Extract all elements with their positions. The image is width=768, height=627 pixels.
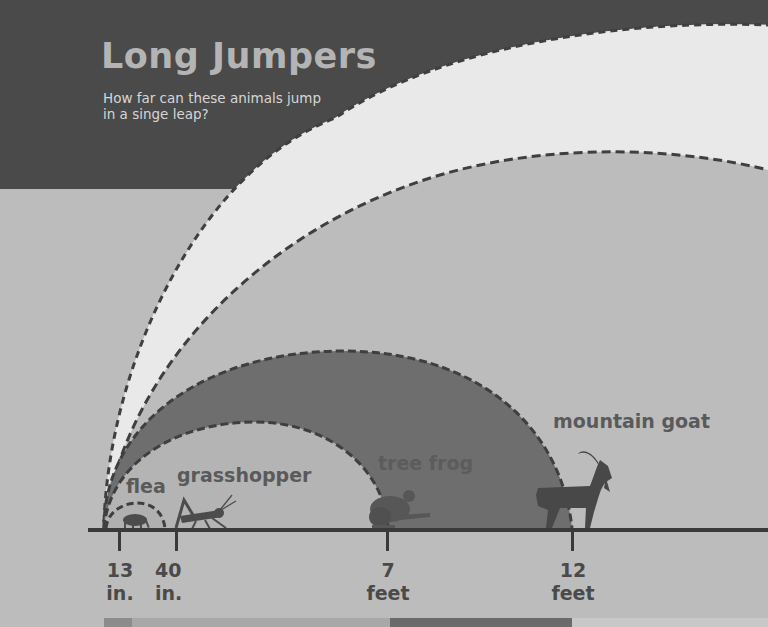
- distance-mountain-goat-value: 12: [543, 559, 603, 582]
- label-mountain-goat: mountain goat: [553, 410, 710, 432]
- distance-tree-frog-unit: feet: [358, 582, 418, 605]
- distance-grasshopper: 40 in.: [155, 559, 199, 605]
- distance-mountain-goat-unit: feet: [543, 582, 603, 605]
- color-bar-3: [390, 618, 572, 627]
- tick-mountain-goat: [571, 530, 574, 551]
- page-subtitle: How far can these animals jump in a sing…: [103, 90, 333, 122]
- distance-tree-frog-value: 7: [358, 559, 418, 582]
- distance-tree-frog: 7 feet: [358, 559, 418, 605]
- label-flea: flea: [126, 475, 166, 497]
- color-bar-2: [132, 618, 390, 627]
- long-jumpers-diagram: Long Jumpers How far can these animals j…: [0, 0, 768, 627]
- distance-flea: 13 in.: [90, 559, 150, 605]
- distance-grasshopper-unit: in.: [155, 582, 199, 605]
- distance-grasshopper-value: 40: [155, 559, 199, 582]
- tick-grasshopper: [175, 530, 178, 551]
- distance-axis: [88, 528, 768, 532]
- distance-mountain-goat: 12 feet: [543, 559, 603, 605]
- tick-flea: [118, 530, 121, 551]
- tick-tree-frog: [386, 530, 389, 551]
- distance-flea-unit: in.: [90, 582, 150, 605]
- page-title: Long Jumpers: [101, 36, 377, 76]
- label-grasshopper: grasshopper: [177, 464, 311, 486]
- color-bar-1: [104, 618, 132, 627]
- distance-flea-value: 13: [90, 559, 150, 582]
- color-bar-4: [572, 618, 768, 627]
- label-tree-frog: tree frog: [378, 452, 473, 474]
